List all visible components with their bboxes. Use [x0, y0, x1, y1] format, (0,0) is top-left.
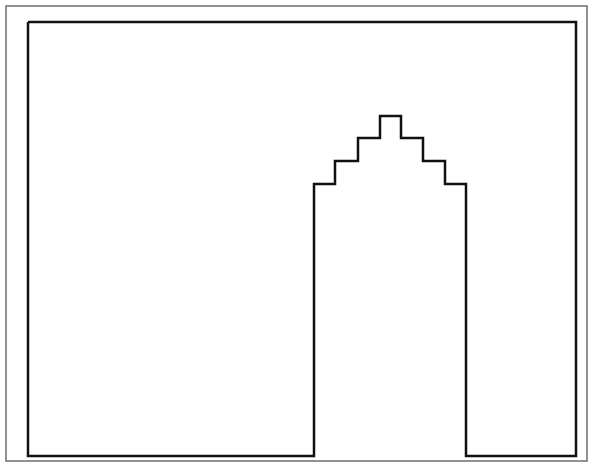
stepped-gable-outline — [28, 22, 576, 456]
outer-frame — [6, 6, 587, 461]
diagram-canvas — [0, 0, 589, 471]
